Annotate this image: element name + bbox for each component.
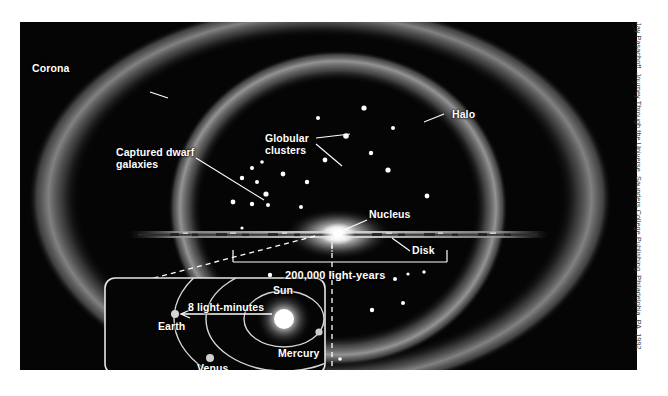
galaxy-diagram-svg [20, 22, 637, 370]
image-credit: Jay Pasachoff, Journey Through the Unive… [631, 22, 645, 370]
label-corona: Corona [32, 62, 69, 74]
label-sun: Sun [273, 284, 293, 296]
galactic-nucleus [333, 231, 343, 238]
label-light-minutes: 8 light-minutes [188, 301, 264, 313]
label-globular-clusters-line2: clusters [265, 144, 306, 156]
label-scale-bar: 200,000 light-years [285, 269, 385, 281]
label-mercury: Mercury [278, 347, 320, 359]
label-earth: Earth [158, 320, 185, 332]
venus-body [206, 354, 214, 362]
label-halo: Halo [452, 108, 475, 120]
figure-page: Corona Halo Captured dwarf galaxies Glob… [0, 0, 668, 396]
label-disk: Disk [412, 244, 435, 256]
galaxy-figure-plate: Corona Halo Captured dwarf galaxies Glob… [20, 22, 637, 370]
label-nucleus: Nucleus [369, 208, 411, 220]
label-captured-dwarf-galaxies-line1: Captured dwarf [116, 146, 194, 158]
earth-body [171, 310, 179, 318]
label-venus: Venus [197, 362, 228, 370]
mercury-body [315, 328, 322, 335]
label-captured-dwarf-galaxies-line2: galaxies [116, 158, 158, 170]
sun-body [274, 309, 294, 329]
label-globular-clusters-line1: Globular [265, 132, 309, 144]
